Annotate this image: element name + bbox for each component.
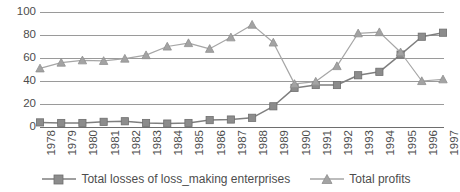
y-tick-label-0: 0 xyxy=(30,121,36,132)
x-tick-label-1985: 1985 xyxy=(193,130,205,156)
series-losses xyxy=(36,29,446,127)
x-tick-label-1984: 1984 xyxy=(172,130,184,156)
chart-legend: Total losses of loss_making enterprises … xyxy=(0,168,453,190)
x-tick-label-1987: 1987 xyxy=(236,130,248,156)
y-tick-label-60: 60 xyxy=(23,52,36,63)
x-tick-label-1983: 1983 xyxy=(151,130,163,156)
legend-label-losses: Total losses of loss_making enterprises xyxy=(81,172,290,186)
data-point-square xyxy=(270,103,277,110)
data-point-square xyxy=(121,118,128,125)
y-tick-label-100: 100 xyxy=(17,6,36,17)
axis-baseline xyxy=(40,127,444,128)
x-tick-label-1991: 1991 xyxy=(321,130,333,156)
data-point-square xyxy=(58,119,65,126)
x-tick-label-1989: 1989 xyxy=(278,130,290,156)
data-point-square xyxy=(142,119,149,126)
data-point-square xyxy=(439,29,446,36)
y-tick-label-20: 20 xyxy=(23,98,36,109)
x-tick-label-1978: 1978 xyxy=(45,130,57,156)
data-point-square xyxy=(249,114,256,121)
legend-item-profits: Total profits xyxy=(310,172,410,186)
legend-label-profits: Total profits xyxy=(349,172,410,186)
x-tick-label-1994: 1994 xyxy=(384,130,396,156)
x-tick-label-1988: 1988 xyxy=(257,130,269,156)
x-tick-label-1997: 1997 xyxy=(448,130,460,156)
data-series-layer xyxy=(40,12,444,127)
series-line xyxy=(40,33,443,124)
data-point-triangle xyxy=(184,39,192,47)
x-tick-label-1981: 1981 xyxy=(109,130,121,156)
x-tick-label-1982: 1982 xyxy=(130,130,142,156)
data-point-square xyxy=(376,68,383,75)
plot-area xyxy=(40,12,444,127)
square-marker-icon xyxy=(42,173,76,185)
data-point-triangle xyxy=(227,33,235,41)
y-tick-label-80: 80 xyxy=(23,29,36,40)
x-tick-label-1992: 1992 xyxy=(342,130,354,156)
legend-item-losses: Total losses of loss_making enterprises xyxy=(42,172,290,186)
series-profits xyxy=(36,20,447,87)
y-axis-labels: 020406080100 xyxy=(0,12,36,127)
data-point-square xyxy=(418,33,425,40)
data-point-square xyxy=(36,119,43,126)
x-tick-label-1996: 1996 xyxy=(427,130,439,156)
data-point-square xyxy=(206,117,213,124)
data-point-square xyxy=(355,72,362,79)
x-axis-labels: 1978197919801981198219831984198519861987… xyxy=(40,130,444,166)
x-tick-label-1979: 1979 xyxy=(66,130,78,156)
data-point-square xyxy=(227,116,234,123)
x-tick-label-1995: 1995 xyxy=(406,130,418,156)
triangle-marker-icon xyxy=(310,173,344,185)
x-tick-label-1980: 1980 xyxy=(87,130,99,156)
x-tick-label-1990: 1990 xyxy=(300,130,312,156)
x-tick-label-1993: 1993 xyxy=(363,130,375,156)
data-point-triangle xyxy=(248,20,256,28)
data-point-triangle xyxy=(142,51,150,59)
y-tick-label-40: 40 xyxy=(23,75,36,86)
data-point-square xyxy=(164,120,171,127)
data-point-square xyxy=(185,119,192,126)
data-point-square xyxy=(79,119,86,126)
data-point-square xyxy=(333,81,340,88)
x-tick-label-1986: 1986 xyxy=(215,130,227,156)
data-point-triangle xyxy=(333,62,341,70)
data-point-square xyxy=(100,118,107,125)
